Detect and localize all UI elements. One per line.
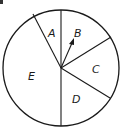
section-label-c: C: [92, 63, 100, 76]
spinner-diagram: A B C D E: [0, 0, 122, 139]
corner-mark: [0, 0, 3, 4]
section-label-b: B: [74, 27, 82, 40]
divider-c-d: [61, 68, 110, 98]
section-label-d: D: [72, 93, 80, 106]
divider-a-e: [33, 14, 61, 68]
divider-b-c: [61, 37, 111, 68]
section-label-e: E: [28, 70, 35, 83]
section-label-a: A: [47, 27, 56, 40]
